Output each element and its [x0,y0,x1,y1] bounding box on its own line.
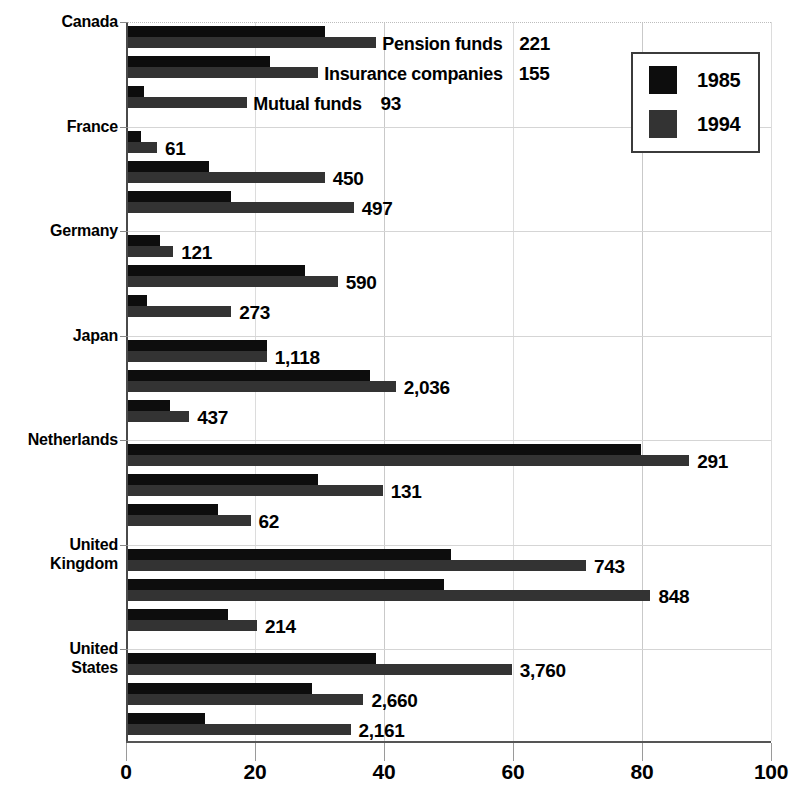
series-name-0-1: Insurance companies [324,65,502,84]
bar-value-2-0: 121 [181,243,212,262]
group-separator-2 [126,231,771,232]
bar-1994-3-0 [128,351,267,362]
category-label-canada: Canada [0,12,118,31]
bar-1985-6-0 [128,653,376,664]
bar-1994-5-2 [128,620,257,631]
bar-value-5-0: 743 [594,557,625,576]
bar-1985-5-1 [128,579,444,590]
gridline-x-100 [771,22,772,741]
bar-1985-0-1 [128,56,270,67]
group-separator-3 [126,336,771,337]
x-tick-label-80: 80 [631,760,654,784]
bar-1985-3-0 [128,340,267,351]
x-tick-label-20: 20 [244,760,267,784]
bar-value-5-1: 848 [658,587,689,606]
category-label-united-kingdom: United Kingdom [0,535,118,573]
bar-1994-6-2 [128,724,351,735]
bar-1985-1-1 [128,161,209,172]
bar-1985-5-2 [128,609,228,620]
category-tick-1 [120,127,128,128]
x-tick-20 [255,743,256,761]
x-tick-label-0: 0 [120,760,131,784]
bar-1994-0-0 [128,37,376,48]
bar-value-4-2: 62 [259,512,280,531]
bar-1985-2-1 [128,265,305,276]
category-label-netherlands: Netherlands [0,430,118,449]
x-tick-label-100: 100 [754,760,788,784]
bar-value-3-0: 1,118 [275,348,320,367]
bar-value-2-1: 590 [346,273,377,292]
category-tick-2 [120,231,128,232]
category-label-united-states: United States [0,639,118,677]
group-separator-0 [126,22,771,23]
category-label-germany: Germany [0,221,118,240]
group-separator-4 [126,440,771,441]
legend-label-1994: 1994 [697,113,740,136]
bar-1994-1-1 [128,172,325,183]
bar-1985-0-0 [128,26,325,37]
bar-1985-1-2 [128,191,231,202]
bar-value-1-1: 450 [333,169,364,188]
x-tick-40 [384,743,385,761]
bar-1994-3-2 [128,411,189,422]
legend-row-1994: 1994 [649,110,749,138]
bar-1994-1-0 [128,142,157,153]
bar-1994-0-1 [128,67,318,78]
series-name-0-0: Pension funds [382,35,502,54]
bar-1994-3-1 [128,381,396,392]
bar-1985-2-2 [128,295,147,306]
bar-1994-0-2 [128,97,247,108]
category-tick-6 [120,649,128,650]
bar-value-6-1: 2,660 [371,691,417,710]
legend-swatch-1985 [649,66,677,94]
x-tick-0 [126,743,127,761]
bar-value-1-0: 61 [165,139,186,158]
bar-value-0-1: 155 [519,64,550,83]
x-tick-60 [513,743,514,761]
bar-value-6-0: 3,760 [520,661,566,680]
bar-1994-1-2 [128,202,354,213]
group-separator-6 [126,649,771,650]
bar-1994-2-2 [128,306,231,317]
bar-value-6-2: 2,161 [359,721,405,740]
category-tick-5 [120,545,128,546]
x-tick-label-60: 60 [502,760,525,784]
bar-1994-6-1 [128,694,363,705]
group-separator-5 [126,545,771,546]
legend-label-1985: 1985 [697,69,740,92]
bar-1985-2-0 [128,235,160,246]
bar-1985-3-1 [128,370,370,381]
bar-1985-4-0 [128,444,641,455]
bar-1994-4-1 [128,485,383,496]
bar-value-0-0: 221 [519,34,550,53]
x-tick-100 [771,743,772,761]
x-axis-line [126,741,771,743]
bar-1994-2-0 [128,246,173,257]
bar-value-4-1: 131 [391,482,422,501]
bar-1994-2-1 [128,276,338,287]
bar-1985-5-0 [128,549,451,560]
bar-1994-5-0 [128,560,586,571]
category-label-japan: Japan [0,326,118,345]
bar-1994-4-2 [128,515,251,526]
bar-1985-6-2 [128,713,205,724]
bar-value-3-1: 2,036 [404,378,450,397]
x-tick-label-40: 40 [373,760,396,784]
bar-1985-4-1 [128,474,318,485]
series-name-0-2: Mutual funds [253,95,361,114]
legend: 19851994 [631,52,760,153]
x-tick-80 [642,743,643,761]
bar-value-4-0: 291 [697,452,728,471]
category-tick-4 [120,440,128,441]
category-tick-3 [120,336,128,337]
bar-value-2-2: 273 [239,303,270,322]
bar-1985-1-0 [128,131,141,142]
bar-chart: 020406080100CanadaPension funds221Insura… [0,0,800,791]
bar-1985-6-1 [128,683,312,694]
bar-value-3-2: 437 [197,408,228,427]
bar-1985-3-2 [128,400,170,411]
bar-value-1-2: 497 [362,199,393,218]
bar-value-5-2: 214 [265,617,296,636]
bar-1985-4-2 [128,504,218,515]
legend-row-1985: 1985 [649,66,749,94]
